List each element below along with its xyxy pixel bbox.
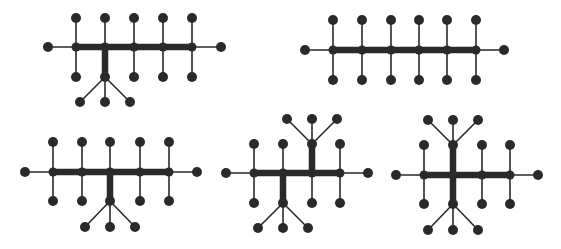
junction-node <box>336 169 345 178</box>
leaf-node <box>129 13 139 23</box>
leaf-node <box>505 199 515 209</box>
leaf-node <box>419 140 429 150</box>
leaf-node <box>158 72 168 82</box>
branch-node <box>448 140 458 150</box>
leaf-node <box>307 114 317 124</box>
leaf-node <box>158 13 168 23</box>
leaf-node <box>419 199 429 209</box>
leaf-node <box>423 225 433 235</box>
junction-node <box>358 46 367 55</box>
fan-edge <box>105 77 130 102</box>
leaf-node <box>105 222 115 232</box>
leaf-node <box>335 198 345 208</box>
junction-node <box>443 46 452 55</box>
leaf-node <box>442 15 452 25</box>
junction-node <box>279 169 288 178</box>
leaf-node <box>278 223 288 233</box>
junction-node <box>250 169 259 178</box>
junction-node <box>329 46 338 55</box>
leaf-node <box>100 97 110 107</box>
leaf-node <box>75 97 85 107</box>
leaf-node <box>473 115 483 125</box>
junction-node <box>449 171 458 180</box>
leaf-node <box>505 140 515 150</box>
leaf-node <box>48 196 58 206</box>
leaf-node <box>71 72 81 82</box>
leaf-node <box>307 198 317 208</box>
end-node <box>192 167 202 177</box>
leaf-node <box>386 15 396 25</box>
leaf-node <box>135 137 145 147</box>
leaf-node <box>335 139 345 149</box>
junction-node <box>159 43 168 52</box>
edges <box>396 120 538 230</box>
graph-2 <box>300 15 509 85</box>
leaf-node <box>414 75 424 85</box>
leaf-node <box>48 137 58 147</box>
leaf-node <box>77 196 87 206</box>
leaf-node <box>278 139 288 149</box>
branch-node <box>278 198 288 208</box>
leaf-node <box>473 225 483 235</box>
fan-edge <box>283 203 308 228</box>
junction-node <box>165 168 174 177</box>
fan-edge <box>428 120 453 145</box>
leaf-node <box>105 137 115 147</box>
junction-node <box>188 43 197 52</box>
leaf-node <box>386 75 396 85</box>
leaf-node <box>448 225 458 235</box>
junction-node <box>136 168 145 177</box>
leaf-node <box>187 13 197 23</box>
leaf-node <box>448 115 458 125</box>
junction-node <box>308 169 317 178</box>
junction-node <box>478 171 487 180</box>
end-node <box>300 45 310 55</box>
end-node <box>221 168 231 178</box>
leaf-node <box>129 72 139 82</box>
leaf-node <box>282 114 292 124</box>
leaf-node <box>332 114 342 124</box>
leaf-node <box>303 223 313 233</box>
end-node <box>20 167 30 177</box>
leaf-node <box>357 15 367 25</box>
leaf-node <box>249 198 259 208</box>
junction-node <box>78 168 87 177</box>
junction-node <box>49 168 58 177</box>
junction-node <box>72 43 81 52</box>
fan-edge <box>80 77 105 102</box>
edges <box>25 142 197 227</box>
end-node <box>43 42 53 52</box>
end-node <box>216 42 226 52</box>
fan-edge <box>287 119 312 144</box>
graph-3 <box>20 137 202 232</box>
leaf-node <box>125 97 135 107</box>
branch-node <box>100 72 110 82</box>
edges <box>226 119 368 228</box>
branch-node <box>448 199 458 209</box>
fan-edge <box>453 204 478 230</box>
junction-node <box>506 171 515 180</box>
graph-1 <box>43 13 226 107</box>
fan-edge <box>453 120 478 145</box>
junction-node <box>106 168 115 177</box>
leaf-node <box>164 137 174 147</box>
junction-node <box>420 171 429 180</box>
junction-node <box>387 46 396 55</box>
leaf-node <box>249 139 259 149</box>
leaf-node <box>477 140 487 150</box>
leaf-node <box>471 75 481 85</box>
junction-node <box>472 46 481 55</box>
leaf-node <box>423 115 433 125</box>
leaf-node <box>357 75 367 85</box>
end-node <box>363 168 373 178</box>
graph-4 <box>221 114 373 233</box>
graph-5 <box>391 115 543 235</box>
fan-edge <box>428 204 453 230</box>
leaf-node <box>477 199 487 209</box>
leaf-node <box>80 222 90 232</box>
fan-edge <box>258 203 283 228</box>
leaf-node <box>442 75 452 85</box>
edges <box>48 18 221 102</box>
branch-node <box>105 196 115 206</box>
end-node <box>533 170 543 180</box>
